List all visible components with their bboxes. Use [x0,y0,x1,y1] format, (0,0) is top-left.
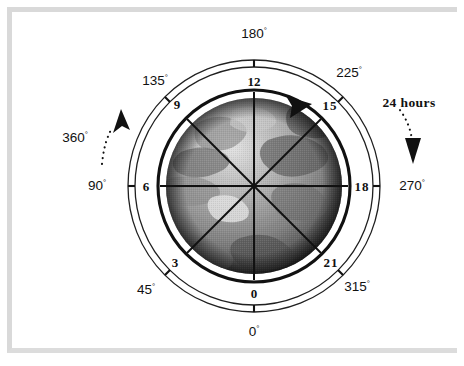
degree-label-135: 135° [142,74,168,88]
cw-24-hours-label: 24 hours [382,96,435,110]
hour-label-12: 12 [248,75,261,88]
degree-label-0: 0° [249,325,260,339]
degree-label-270: 270° [399,179,425,193]
ccw-360-degrees-label: 360° [62,131,88,145]
hour-label-18: 18 [355,180,370,193]
figure-canvas: 180° 225° 270° 315° 0° 45° 90° 135° 12 1… [0,0,464,366]
degree-label-45: 45° [137,283,155,297]
hour-label-9: 9 [174,98,181,111]
ccw-direction-arrow [102,109,130,164]
hour-spokes [160,92,348,280]
cw-direction-arrow [400,110,421,164]
hour-label-0: 0 [251,287,258,300]
polar-diagram-svg [0,0,464,366]
degree-label-225: 225° [336,66,362,80]
hour-label-21: 21 [324,256,339,269]
hour-label-15: 15 [323,99,338,112]
hour-label-3: 3 [172,256,179,269]
degree-label-90: 90° [88,179,106,193]
degree-label-180: 180° [241,27,267,41]
degree-label-315: 315° [344,280,370,294]
hour-label-6: 6 [143,180,150,193]
